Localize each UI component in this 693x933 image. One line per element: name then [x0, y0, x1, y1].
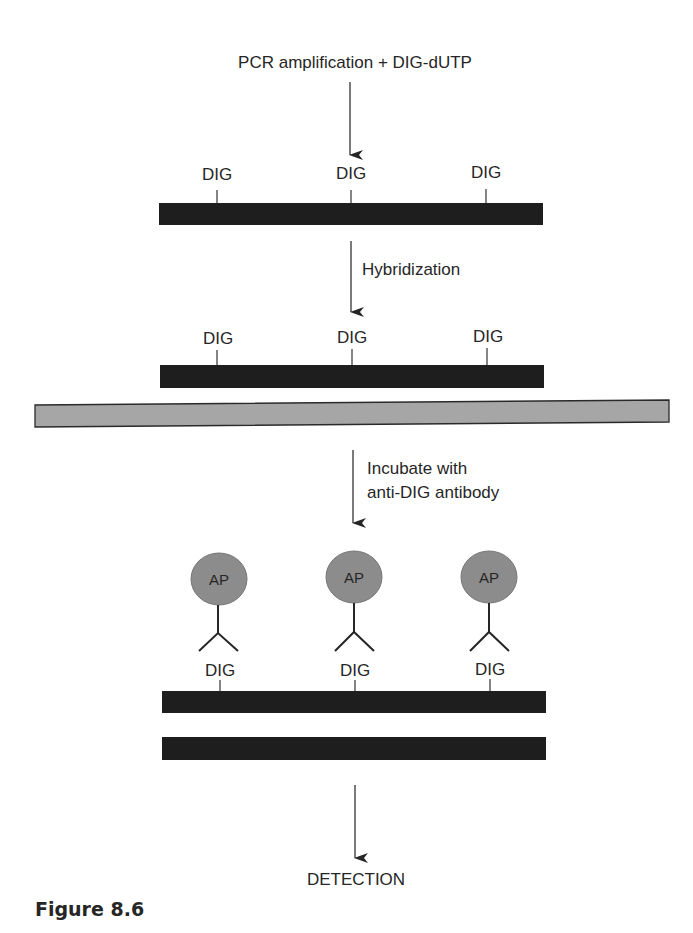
ap-label: AP — [479, 569, 499, 586]
dig-label: DIG — [340, 661, 370, 680]
figure-caption: Figure 8.6 — [35, 898, 144, 920]
ap-antibody-conjugate: AP DIG — [191, 553, 247, 692]
step-hybridization: Hybridization — [362, 260, 460, 279]
dig-label: DIG — [203, 329, 233, 348]
step-incubate-line1: Incubate with — [367, 459, 467, 478]
ap-label: AP — [209, 571, 229, 588]
step-incubate-line2: anti-DIG antibody — [367, 483, 500, 502]
step-title-pcr: PCR amplification + DIG-dUTP — [238, 53, 472, 72]
dig-label: DIG — [202, 165, 232, 184]
antibody-y-icon — [335, 632, 374, 651]
antibody-y-icon — [199, 633, 238, 651]
ap-antibody-conjugate: AP DIG — [326, 551, 382, 692]
dna-strand-bar — [159, 203, 543, 225]
dna-strand-bar — [160, 365, 544, 388]
hybridized-probe: DIG DIG DIG — [160, 327, 544, 388]
dig-label: DIG — [205, 661, 235, 680]
target-strand-bar — [162, 737, 546, 760]
dig-label: DIG — [336, 164, 366, 183]
dig-labeling-diagram: PCR amplification + DIG-dUTP DIG DIG DIG… — [0, 0, 693, 933]
labeled-probe: DIG DIG DIG — [159, 163, 543, 225]
step-detection: DETECTION — [307, 870, 405, 889]
dna-strand-bar — [162, 691, 546, 713]
ap-label: AP — [344, 569, 364, 586]
dig-label: DIG — [337, 328, 367, 347]
ap-antibody-conjugate: AP DIG — [461, 551, 517, 691]
membrane-bar — [35, 400, 669, 427]
dig-label: DIG — [473, 327, 503, 346]
antibody-bound-probe: AP DIG AP DIG AP DIG — [162, 551, 546, 713]
dig-label: DIG — [475, 660, 505, 679]
antibody-y-icon — [470, 632, 509, 651]
dig-label: DIG — [471, 163, 501, 182]
